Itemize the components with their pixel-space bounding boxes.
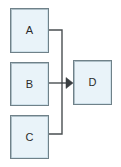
node-a[interactable]: A [10,8,49,53]
node-d[interactable]: D [73,60,112,105]
node-b-label: B [26,79,34,90]
edge-a-to-d [49,30,62,83]
edge-c-to-d [49,83,62,134]
node-a-label: A [26,25,34,36]
diagram-canvas: A B C D [0,0,121,167]
node-c-label: C [25,132,33,143]
node-c[interactable]: C [10,115,49,159]
arrowhead-icon [66,78,73,89]
node-d-label: D [88,77,96,88]
node-b[interactable]: B [10,62,49,106]
